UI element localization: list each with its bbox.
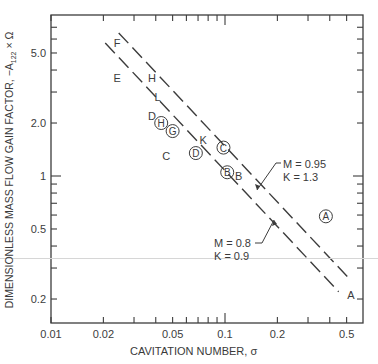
point-label-c: C (220, 143, 227, 154)
x-axis-label: CAVITATION NUMBER, σ (130, 345, 257, 357)
x-tick-label: 0.5 (339, 328, 354, 340)
point-label-c: C (162, 150, 170, 162)
y-tick-label: 0.5 (31, 223, 46, 235)
point-label-l: L (155, 91, 161, 103)
annotation-upper-line: M = 0.95 K = 1.3 (283, 158, 326, 184)
leader-upper (257, 163, 281, 190)
y-tick-label: 1 (40, 170, 46, 182)
point-label-a: A (323, 211, 330, 222)
point-label-d: D (192, 148, 199, 159)
x-tick-label: 0.05 (162, 328, 183, 340)
point-label-a: A (347, 289, 355, 301)
x-tick-label: 0.02 (93, 328, 114, 340)
point-label-e: E (113, 72, 120, 84)
point-label-b: B (224, 167, 231, 178)
y-axis-label: DIMENSIONLESS MASS FLOW GAIN FACTOR, −A1… (3, 32, 17, 309)
point-label-g: G (169, 126, 177, 137)
point-label-h: H (148, 72, 156, 84)
annotation-lower-line: M = 0.8 K = 0.9 (214, 237, 251, 263)
x-tick-label: 0.1 (217, 328, 232, 340)
y-tick-label: 0.2 (31, 293, 46, 305)
point-label-d: D (148, 110, 156, 122)
point-label-k: K (200, 134, 208, 146)
x-tick-label: 0.2 (270, 328, 285, 340)
y-tick-label: 2.0 (31, 117, 46, 129)
y-tick-label: 5.0 (31, 47, 46, 59)
scan-line (0, 258, 378, 259)
point-label-b: B (235, 170, 242, 182)
x-tick-label: 0.01 (40, 328, 61, 340)
point-label-f: F (114, 37, 121, 49)
leader-lower (255, 220, 274, 243)
point-label-h: H (158, 118, 165, 129)
